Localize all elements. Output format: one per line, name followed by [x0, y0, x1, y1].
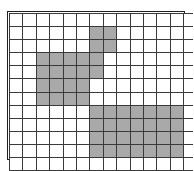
grid-cell-empty [63, 158, 76, 171]
grid-row [10, 92, 194, 105]
grid-cell-empty [170, 14, 183, 27]
grid-cell-empty [23, 92, 36, 105]
grid-cell-empty [157, 14, 170, 27]
grid-cell-empty [76, 105, 89, 118]
grid-cell-empty [10, 131, 23, 144]
grid-cell-filled [90, 105, 103, 118]
grid-cell-empty [117, 158, 130, 171]
grid-row [10, 105, 194, 118]
grid-cell-filled [90, 53, 103, 66]
grid-cell-filled [157, 118, 170, 131]
grid-cell-empty [76, 14, 89, 27]
grid-cell-empty [63, 27, 76, 40]
grid-cell-filled [90, 144, 103, 157]
grid-cell-filled [117, 118, 130, 131]
grid-cell-empty [130, 14, 143, 27]
grid-cell-filled [50, 66, 63, 79]
grid-cell-empty [50, 158, 63, 171]
grid-cell-filled [36, 79, 49, 92]
grid-cell-filled [130, 118, 143, 131]
grid-cell-empty [157, 66, 170, 79]
grid-cell-empty [157, 92, 170, 105]
grid-cell-empty [36, 118, 49, 131]
grid-cell-empty [143, 66, 156, 79]
grid-cell-empty [50, 144, 63, 157]
grid-cell-empty [184, 27, 193, 40]
grid-cell-empty [63, 144, 76, 157]
grid-cell-filled [90, 40, 103, 53]
grid-cell-filled [143, 105, 156, 118]
grid-cell-empty [76, 27, 89, 40]
grid-cell-empty [23, 105, 36, 118]
grid-cell-filled [103, 118, 116, 131]
grid-cell-filled [63, 79, 76, 92]
grid-cell-empty [184, 14, 193, 27]
grid-cell-empty [36, 14, 49, 27]
grid-cell-empty [10, 105, 23, 118]
grid-cell-filled [117, 144, 130, 157]
grid-cell-empty [117, 40, 130, 53]
grid-cell-empty [90, 79, 103, 92]
grid-cell-empty [10, 53, 23, 66]
grid-cell-empty [157, 27, 170, 40]
grid-cell-filled [90, 118, 103, 131]
grid-cell-empty [103, 92, 116, 105]
grid-cell-filled [76, 92, 89, 105]
grid-cell-empty [23, 40, 36, 53]
grid-cell-filled [63, 92, 76, 105]
grid-cell-filled [63, 53, 76, 66]
grid-cell-filled [157, 131, 170, 144]
grid-cell-empty [36, 105, 49, 118]
grid-cell-empty [157, 40, 170, 53]
grid-cell-empty [10, 92, 23, 105]
grid-cell-filled [36, 66, 49, 79]
grid-cell-empty [184, 131, 193, 144]
grid-row [10, 40, 194, 53]
grid-row [10, 118, 194, 131]
grid-cell-filled [170, 105, 183, 118]
grid-cell-empty [76, 118, 89, 131]
grid-cell-empty [184, 92, 193, 105]
grid-cell-filled [117, 105, 130, 118]
grid-cell-empty [170, 158, 183, 171]
grid-cell-empty [50, 27, 63, 40]
grid-cell-empty [117, 53, 130, 66]
grid-cell-empty [23, 131, 36, 144]
grid-cell-empty [184, 118, 193, 131]
grid-cell-empty [103, 14, 116, 27]
grid-cell-empty [184, 144, 193, 157]
grid-row [10, 131, 194, 144]
grid-cell-empty [76, 144, 89, 157]
grid-cell-empty [143, 53, 156, 66]
grid-cell-empty [103, 158, 116, 171]
grid-cell-filled [36, 53, 49, 66]
grid-cell-empty [157, 79, 170, 92]
grid-cell-empty [23, 79, 36, 92]
grid-cell-empty [130, 40, 143, 53]
grid-cell-empty [143, 79, 156, 92]
grid-cell-empty [117, 66, 130, 79]
grid-cell-empty [184, 105, 193, 118]
grid-cell-empty [103, 79, 116, 92]
grid-cell-empty [157, 53, 170, 66]
grid-cell-filled [117, 131, 130, 144]
grid-cell-empty [130, 53, 143, 66]
grid-cell-empty [36, 27, 49, 40]
grid-cell-empty [130, 66, 143, 79]
grid-cell-empty [103, 66, 116, 79]
grid-row [10, 14, 194, 27]
grid-cell-empty [23, 27, 36, 40]
grid-cell-empty [184, 53, 193, 66]
grid-row [10, 158, 194, 171]
grid-cell-empty [36, 158, 49, 171]
grid-cell-empty [184, 66, 193, 79]
grid-cell-filled [90, 131, 103, 144]
grid-cell-empty [63, 14, 76, 27]
grid-row [10, 144, 194, 157]
grid-cell-filled [130, 144, 143, 157]
grid-cell-filled [103, 27, 116, 40]
grid-cell-empty [130, 92, 143, 105]
grid-cell-empty [90, 158, 103, 171]
grid-cell-empty [143, 14, 156, 27]
grid-cell-empty [143, 92, 156, 105]
